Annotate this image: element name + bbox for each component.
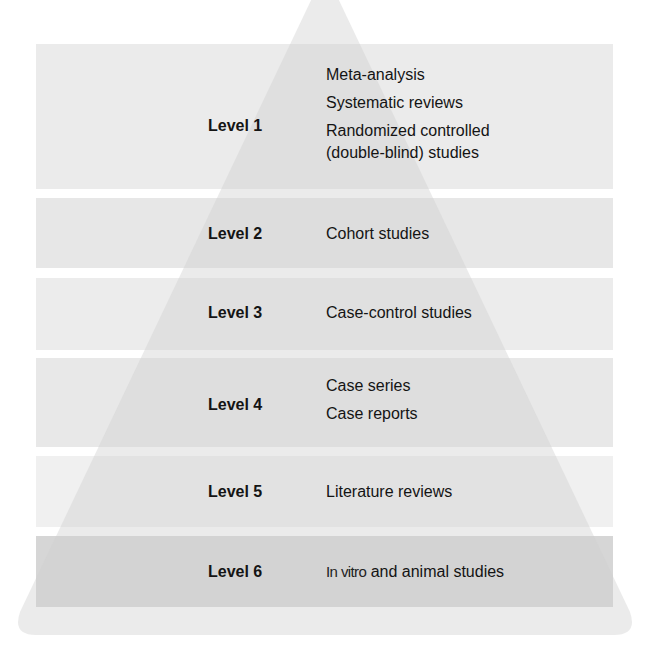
band-level-3: [36, 278, 613, 350]
level-4-items: Case series Case reports: [326, 377, 418, 423]
level-3-item: Case-control studies: [326, 304, 472, 322]
level-2-item: Cohort studies: [326, 225, 429, 243]
level-2-label: Level 2: [208, 225, 262, 243]
evidence-pyramid-diagram: Level 1 Meta-analysis Systematic reviews…: [0, 0, 650, 650]
level-2-items: Cohort studies: [326, 225, 429, 243]
level-5-item: Literature reviews: [326, 483, 452, 501]
level-5-items: Literature reviews: [326, 483, 452, 501]
band-level-5: [36, 456, 613, 527]
band-level-4: [36, 358, 613, 447]
level-6-label: Level 6: [208, 563, 262, 581]
level-1-item: Meta-analysis: [326, 66, 490, 84]
level-6-item-prefix: In vitro: [326, 563, 366, 580]
level-4-label: Level 4: [208, 396, 262, 414]
level-1-item: Systematic reviews: [326, 94, 490, 112]
level-6-items: In vitro and animal studies: [326, 563, 504, 581]
band-level-6: [36, 536, 613, 607]
level-4-item: Case reports: [326, 405, 418, 423]
level-1-label: Level 1: [208, 117, 262, 135]
band-level-1: [36, 44, 613, 189]
level-1-items: Meta-analysis Systematic reviews Randomi…: [326, 66, 490, 162]
level-1-item: (double-blind) studies: [326, 144, 490, 162]
level-1-item: Randomized controlled: [326, 122, 490, 140]
level-3-label: Level 3: [208, 304, 262, 322]
level-4-item: Case series: [326, 377, 418, 395]
level-6-item-suffix: and animal studies: [366, 563, 504, 580]
level-5-label: Level 5: [208, 483, 262, 501]
band-level-2: [36, 198, 613, 268]
level-3-items: Case-control studies: [326, 304, 472, 322]
